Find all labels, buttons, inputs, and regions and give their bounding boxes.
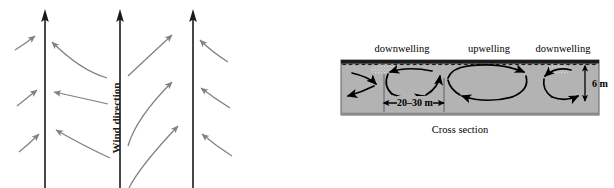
cross-section-caption: Cross section <box>432 124 489 135</box>
surface-flow-arrows-row-1 <box>15 35 228 78</box>
flow-arrow <box>202 134 232 156</box>
streak-line-3 <box>189 9 197 188</box>
langmuir-circulation-figure: Wind direction <box>0 0 614 188</box>
flow-arrow <box>128 82 172 146</box>
wind-direction-label: Wind direction <box>110 83 122 154</box>
water-surface-band <box>341 60 599 63</box>
flow-arrow <box>19 134 39 152</box>
zone-label-upwelling: upwelling <box>468 43 511 54</box>
surface-flow-arrows-row-2 <box>17 82 230 146</box>
water-bottom-shadow <box>341 113 599 115</box>
flow-arrow <box>17 90 37 106</box>
flow-arrow <box>201 88 230 108</box>
flow-arrow <box>15 36 35 50</box>
cross-section-svg: downwelling upwelling downwelling <box>307 0 614 188</box>
flow-arrow <box>200 40 228 62</box>
zone-label-group: downwelling upwelling downwelling <box>375 43 592 54</box>
streak-line-1 <box>41 9 49 188</box>
flow-arrow <box>56 130 110 158</box>
spacing-label: 20–30 m <box>397 97 434 108</box>
plan-view-panel: Wind direction <box>0 0 307 188</box>
plan-view-svg: Wind direction <box>0 0 307 188</box>
surface-flow-arrows-row-3 <box>19 126 232 188</box>
depth-label: 6 m <box>592 78 609 89</box>
flow-arrow <box>129 126 178 188</box>
cross-section-panel: downwelling upwelling downwelling <box>307 0 614 188</box>
flow-arrow <box>52 42 107 78</box>
zone-label-downwelling-right: downwelling <box>536 43 592 54</box>
zone-label-downwelling-left: downwelling <box>375 43 431 54</box>
foam-patch-left <box>370 65 398 75</box>
flow-arrow <box>54 92 108 104</box>
flow-arrow <box>128 35 172 76</box>
